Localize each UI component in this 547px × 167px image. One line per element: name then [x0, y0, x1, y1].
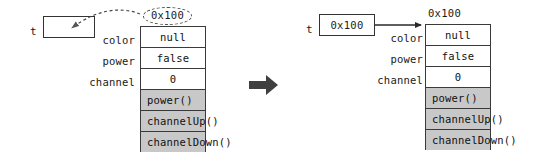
before-method-channel-up: channelUp() [141, 111, 205, 132]
after-field-name-color: color [348, 33, 423, 44]
after-method-channel-up: channelUp() [426, 109, 490, 130]
after-field-name-power: power [348, 54, 423, 65]
before-variable-label: t [30, 26, 37, 37]
before-field-name-color: color [60, 35, 135, 46]
before-field-value-power: false [141, 48, 205, 69]
before-field-name-power: power [60, 56, 135, 67]
before-field-value-channel: 0 [141, 69, 205, 90]
before-address-caption: 0x100 [143, 7, 192, 25]
before-field-name-channel: channel [60, 77, 135, 88]
after-method-channel-down: channelDown() [426, 130, 490, 150]
transition-arrow-icon [249, 73, 279, 97]
after-field-value-channel: 0 [426, 67, 490, 88]
before-method-channel-down: channelDown() [141, 132, 205, 152]
after-field-value-power: false [426, 46, 490, 67]
after-object-table: null false 0 power() channelUp() channel… [425, 24, 491, 150]
after-variable-label: t [306, 24, 313, 35]
after-address-caption: 0x100 [428, 8, 461, 19]
after-field-name-channel: channel [348, 75, 423, 86]
after-variable-value: 0x100 [330, 19, 363, 31]
after-method-power: power() [426, 88, 490, 109]
before-method-power: power() [141, 90, 205, 111]
after-state-panel: t 0x100 0x100 color power channel null f… [273, 0, 547, 167]
before-state-panel: t 0x100 color power channel null false 0… [0, 0, 250, 167]
before-field-value-color: null [141, 27, 205, 48]
after-field-value-color: null [426, 25, 490, 46]
before-object-table: null false 0 power() channelUp() channel… [140, 26, 206, 152]
